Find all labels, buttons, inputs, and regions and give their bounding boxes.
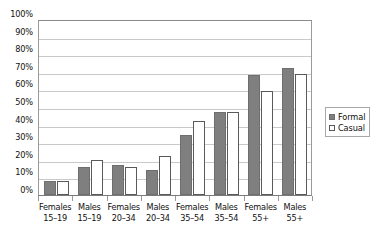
x-axis-label: Females35–54 [175, 202, 209, 236]
legend-item: Formal [329, 111, 365, 122]
legend-label: Casual [338, 123, 365, 133]
y-axis-tick-label: 50% [15, 98, 33, 107]
legend-item: Casual [329, 122, 365, 133]
bar-casual [295, 74, 307, 195]
y-axis-tick-label: 90% [15, 27, 33, 36]
bar-group [209, 21, 243, 195]
category-tick [175, 196, 176, 201]
x-axis-label: Males15–19 [72, 202, 106, 236]
x-axis-label-group: Males [78, 202, 101, 212]
category-tick [209, 196, 210, 201]
x-axis-label: Males55+ [278, 202, 312, 236]
x-axis-label-group: Males [215, 202, 238, 212]
bar-group [39, 21, 73, 195]
x-axis-label: Females15–19 [38, 202, 72, 236]
x-axis-label-agerange: 55+ [244, 213, 278, 224]
category-tick [72, 196, 73, 201]
bar-casual [227, 112, 239, 195]
category-tick [38, 196, 39, 201]
x-axis-label: Males35–54 [209, 202, 243, 236]
bar-chart: 100%90%80%70%60%50%40%30%20%10%0% Female… [0, 0, 389, 240]
x-axis-label-agerange: 35–54 [209, 213, 243, 224]
x-axis-label-agerange: 35–54 [175, 213, 209, 224]
bar-formal [282, 68, 294, 195]
y-axis-tick-labels: 100%90%80%70%60%50%40%30%20%10%0% [0, 14, 36, 196]
x-axis-label-group: Males [147, 202, 170, 212]
bar-group [277, 21, 311, 195]
bar-casual [193, 121, 205, 195]
x-axis-label-group: Males [284, 202, 307, 212]
filled-square-icon [329, 114, 335, 120]
x-axis-label-agerange: 15–19 [72, 213, 106, 224]
bar-formal [180, 135, 192, 195]
x-axis-label-agerange: 55+ [278, 213, 312, 224]
x-axis-label-group: Females [107, 202, 139, 212]
bar-formal [44, 181, 56, 195]
bar-casual [125, 167, 137, 195]
category-tick [312, 196, 313, 201]
bar-formal [248, 75, 260, 195]
x-axis-label: Males20–34 [141, 202, 175, 236]
y-axis-tick-label: 40% [15, 115, 33, 124]
y-axis-tick-label: 60% [15, 80, 33, 89]
bar-formal [146, 170, 158, 195]
x-axis-label-group: Females [39, 202, 71, 212]
bar-casual [91, 160, 103, 195]
legend-label: Formal [338, 112, 365, 122]
category-tick [141, 196, 142, 201]
bar-casual [57, 181, 69, 195]
y-axis-tick-label: 70% [15, 62, 33, 71]
y-axis-tick-label: 0% [20, 186, 33, 195]
category-tick [107, 196, 108, 201]
category-tick [244, 196, 245, 201]
x-axis-label-group: Females [176, 202, 208, 212]
bar-casual [159, 156, 171, 195]
x-axis-label-agerange: 20–34 [141, 213, 175, 224]
y-axis-tick-label: 100% [10, 10, 33, 19]
outlined-square-icon [329, 125, 335, 131]
y-axis-tick-label: 20% [15, 150, 33, 159]
x-axis-label-agerange: 20–34 [107, 213, 141, 224]
x-axis-label-group: Females [244, 202, 276, 212]
bar-casual [261, 91, 273, 195]
x-axis-category-labels: Females15–19Males15–19Females20–34Males2… [38, 202, 312, 236]
bar-formal [78, 167, 90, 195]
bar-formal [112, 165, 124, 195]
x-axis-label: Females55+ [244, 202, 278, 236]
y-axis-tick-label: 30% [15, 133, 33, 142]
bar-group [175, 21, 209, 195]
category-tick-marks [38, 196, 312, 201]
bar-group [107, 21, 141, 195]
y-axis-tick-label: 10% [15, 168, 33, 177]
x-axis-label: Females20–34 [107, 202, 141, 236]
plot-area [38, 20, 312, 196]
bar-groups [39, 21, 311, 195]
chart-legend: FormalCasual [325, 107, 370, 137]
bar-group [141, 21, 175, 195]
bar-group [73, 21, 107, 195]
bar-group [243, 21, 277, 195]
y-axis-tick-label: 80% [15, 45, 33, 54]
category-tick [278, 196, 279, 201]
bar-formal [214, 112, 226, 195]
x-axis-label-agerange: 15–19 [38, 213, 72, 224]
